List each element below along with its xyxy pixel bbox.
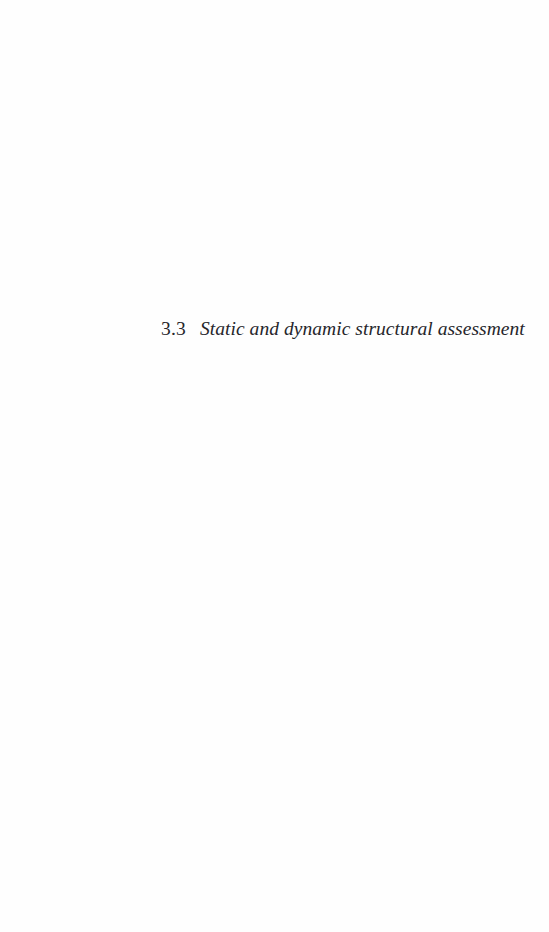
section-number: 3.3 [161, 316, 186, 342]
running-header-residue: · · · · · · · · · · · · · · [0, 0, 549, 6]
section-heading: 3.3Static and dynamic structural assessm… [161, 316, 521, 342]
section-title: Static and dynamic structural assessment [200, 316, 525, 342]
page-body-area [0, 360, 549, 932]
document-page: · · · · · · · · · · · · · · 3.3Static an… [0, 0, 549, 932]
